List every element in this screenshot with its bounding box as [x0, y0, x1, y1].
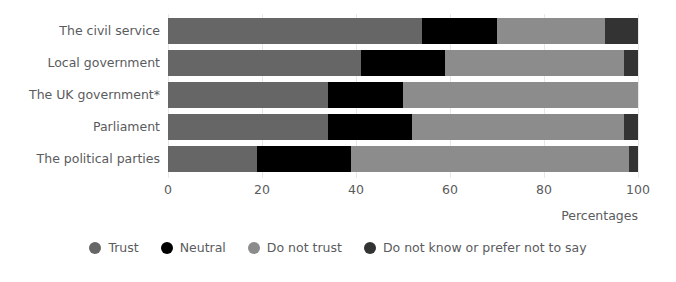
- bar-row: [168, 18, 638, 44]
- y-axis-label: The political parties: [8, 146, 160, 172]
- bar-segment: [168, 146, 257, 172]
- bar-segment: [168, 114, 328, 140]
- legend-item[interactable]: Trust: [89, 240, 138, 255]
- legend-label: Neutral: [180, 240, 226, 255]
- x-axis-tick-label: 100: [626, 182, 650, 197]
- bar-segment: [328, 114, 413, 140]
- legend-swatch-circle-icon: [161, 242, 173, 254]
- bar-row: [168, 114, 638, 140]
- x-axis-tick-label: 20: [254, 182, 270, 197]
- legend-swatch-circle-icon: [89, 242, 101, 254]
- bar-segment: [412, 114, 624, 140]
- bar-segment: [624, 114, 638, 140]
- chart-legend: TrustNeutralDo not trustDo not know or p…: [0, 240, 676, 255]
- bar-segment: [497, 18, 605, 44]
- bar-row: [168, 146, 638, 172]
- plot-area: [168, 14, 638, 178]
- legend-item[interactable]: Neutral: [161, 240, 226, 255]
- gridline-100: [638, 14, 639, 178]
- x-axis-tick-label: 80: [536, 182, 552, 197]
- x-axis-tick-label: 60: [442, 182, 458, 197]
- legend-label: Do not trust: [267, 240, 342, 255]
- bar-segment: [361, 50, 446, 76]
- bar-segment: [168, 82, 328, 108]
- y-axis-category-labels: The civil serviceLocal governmentThe UK …: [0, 14, 160, 178]
- stacked-bar-chart: The civil serviceLocal governmentThe UK …: [0, 0, 676, 282]
- bar-segment: [605, 18, 638, 44]
- y-axis-label: Parliament: [8, 114, 160, 140]
- bar-segment: [445, 50, 624, 76]
- x-axis-tick-label: 0: [164, 182, 172, 197]
- legend-swatch-circle-icon: [248, 242, 260, 254]
- bar-segment: [351, 146, 628, 172]
- legend-item[interactable]: Do not trust: [248, 240, 342, 255]
- legend-item[interactable]: Do not know or prefer not to say: [364, 240, 587, 255]
- legend-label: Do not know or prefer not to say: [383, 240, 587, 255]
- bar-row: [168, 82, 638, 108]
- x-axis-tick-label: 40: [348, 182, 364, 197]
- y-axis-label: The civil service: [8, 18, 160, 44]
- bar-segment: [422, 18, 497, 44]
- bar-segment: [257, 146, 351, 172]
- bar-segment: [629, 146, 638, 172]
- bar-segment: [403, 82, 638, 108]
- y-axis-label: Local government: [8, 50, 160, 76]
- x-axis-ticks: 020406080100: [168, 182, 638, 200]
- y-axis-label: The UK government*: [8, 82, 160, 108]
- bar-segment: [168, 50, 361, 76]
- bar-segment: [624, 50, 638, 76]
- bar-segment: [168, 18, 422, 44]
- x-axis-title: Percentages: [561, 208, 638, 223]
- legend-label: Trust: [108, 240, 138, 255]
- legend-swatch-circle-icon: [364, 242, 376, 254]
- bar-row: [168, 50, 638, 76]
- bar-segment: [328, 82, 403, 108]
